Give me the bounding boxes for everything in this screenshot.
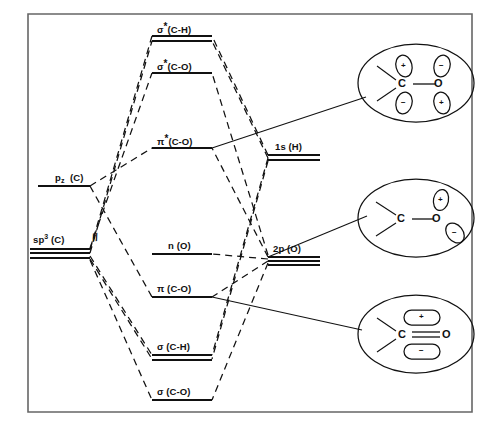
bubble-pi-star-sign-C-lower: − [401,99,406,107]
bubble-pi-star-sign-O-lower: + [439,99,444,107]
bubble-n-sign-upper: + [438,196,443,204]
leader-pi [212,297,362,330]
level-label-pi-star-CO: π*(C-O) π*(C-O) [157,134,193,147]
bubble-pi-star-sign-C-upper: + [401,62,406,70]
bubble-pi-atom-C: C [398,329,406,340]
bubble-pi-sign-lower: − [419,347,424,355]
bubble-leader-lines [212,97,367,330]
bubble-n-atom-C: C [397,213,405,224]
level-bar-sigma-star-CH [152,36,212,41]
figure-border [28,14,472,412]
orbital-bubble-n [358,179,474,257]
level-label-pi-CO: π (C-O) π (C-O) [157,284,191,294]
level-label-1s-H: 1s (H) [275,142,302,152]
level-label-sigma-CO: σ (C-O) σ (C-O) [157,387,191,397]
level-label-pz-C: pz (C) pz (C) [55,173,83,184]
level-bar-2p-O [268,257,320,265]
orbital-bubble-pi [358,295,474,373]
level-label-sp3-C: sp3 (C) sp3 (C) [33,233,65,245]
bubble-pi-star-sign-O-upper: − [439,62,444,70]
level-bar-sigma-CH [152,355,212,360]
bubble-pi-sign-upper: + [419,313,424,321]
level-label-sigma-CH: σ (C-H) σ (C-H) [157,342,190,352]
level-label-sigma-star-CH: σ*(C-H) σ*(C-H) [157,22,191,35]
bubble-pi-star-atom-C: C [398,78,406,89]
level-label-n-O: n (O) n (O) [168,241,191,251]
level-bar-1s-H [268,155,320,160]
mo-diagram-figure: sigma*(C-H) (two strands) --> sigma*(C-O… [0,0,500,430]
mo-diagram-canvas: sigma*(C-H) (two strands) --> sigma*(C-O… [0,0,500,430]
level-label-2p-O: 2p (O) [273,244,301,254]
level-bar-sp3-C [30,249,90,258]
level-label-sigma-star-CO: σ*(C-O) σ*(C-O) [157,59,192,72]
bubble-n-atom-O: O [432,213,441,224]
bubble-n-sign-lower: − [452,229,457,237]
bubble-pi-atom-O: O [442,329,451,340]
bubble-pi-star-atom-O: O [434,78,443,89]
orbital-bubble-pi-star [358,44,474,122]
